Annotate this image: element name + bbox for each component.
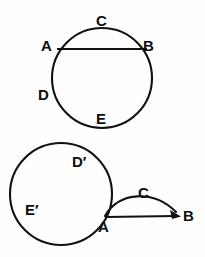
bottom-chord-ab <box>105 216 176 217</box>
label-top-b: B <box>143 38 154 53</box>
label-top-a: A <box>41 38 52 53</box>
label-top-c: C <box>96 13 107 28</box>
label-top-e: E <box>96 111 106 126</box>
label-bottom-d-prime: D′ <box>72 154 86 169</box>
geometry-figure-canvas: C A B D E D′ E′ C A B <box>0 0 205 257</box>
label-bottom-a: A <box>98 219 109 234</box>
label-bottom-c: C <box>138 185 149 200</box>
label-bottom-e-prime: E′ <box>25 202 39 217</box>
bottom-figure-group <box>10 143 181 245</box>
label-top-d: D <box>38 87 49 102</box>
label-bottom-b: B <box>183 208 194 223</box>
bottom-circle <box>10 143 112 245</box>
